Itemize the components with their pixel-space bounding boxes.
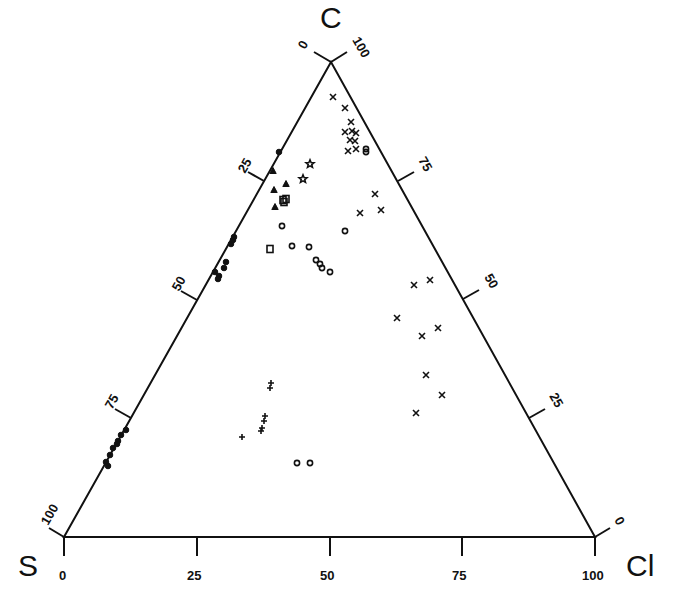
left-label-25: 25 (235, 155, 255, 175)
left-tick-75 (115, 409, 131, 418)
data-point-x (423, 372, 429, 378)
right-label-50: 50 (481, 271, 501, 291)
bottom-label-0: 0 (59, 568, 66, 583)
data-point-triangle (283, 181, 289, 187)
right-label-75: 75 (415, 154, 435, 174)
left-label-100: 100 (38, 501, 62, 527)
right-tick-50 (463, 290, 479, 299)
data-point-x (413, 410, 419, 416)
ternary-diagram: C S Cl 0 25 50 75 100 100 75 50 25 0 0 2… (0, 0, 679, 591)
data-point-plus (258, 428, 264, 434)
data-point-x (353, 146, 359, 152)
data-point-plus (262, 413, 268, 419)
data-point-star (299, 175, 307, 183)
data-point-x (342, 105, 348, 111)
data-point-triangle (272, 204, 278, 210)
ternary-triangle (64, 62, 595, 537)
data-point-x (330, 94, 336, 100)
right-label-0: 0 (611, 514, 628, 528)
data-point-dot (107, 452, 113, 458)
left-tick-50 (181, 291, 197, 300)
data-markers (103, 94, 445, 469)
bottom-label-100: 100 (582, 568, 604, 583)
data-point-plus (259, 425, 265, 431)
data-point-dot (118, 432, 124, 438)
right-label-25: 25 (546, 390, 566, 410)
data-point-circle (319, 265, 324, 270)
data-point-dot (105, 463, 111, 469)
data-point-circle (327, 269, 332, 274)
data-point-circle (342, 228, 347, 233)
left-tick-25 (248, 172, 264, 181)
data-point-x (419, 333, 425, 339)
data-point-dot (231, 234, 237, 240)
data-point-x (357, 210, 363, 216)
series-open-circles (279, 146, 368, 465)
data-point-triangle (271, 187, 277, 193)
data-point-x (348, 119, 354, 125)
data-point-plus (239, 434, 245, 440)
series-stars (299, 160, 314, 183)
right-tick-75 (398, 172, 414, 181)
data-point-x (439, 392, 445, 398)
vertex-label-cl: Cl (626, 549, 654, 582)
data-point-x (372, 191, 378, 197)
left-label-0: 0 (295, 38, 312, 52)
data-point-circle (307, 460, 312, 465)
series-plus (239, 380, 274, 440)
data-point-x (394, 315, 400, 321)
apex-tick-left (314, 52, 331, 62)
right-label-100: 100 (349, 34, 373, 60)
data-point-x (345, 148, 351, 154)
data-point-star (306, 160, 314, 168)
corner-tick-cl-right (595, 528, 610, 537)
left-label-75: 75 (102, 391, 122, 411)
data-point-circle (279, 223, 284, 228)
data-point-circle (306, 244, 311, 249)
data-point-x (427, 277, 433, 283)
data-point-plus (267, 385, 273, 391)
data-point-x (352, 138, 358, 144)
data-point-dot (228, 241, 234, 247)
apex-tick-right (331, 52, 347, 62)
data-point-circle (294, 460, 299, 465)
data-point-x (411, 282, 417, 288)
data-point-dot (276, 149, 282, 155)
bottom-label-25: 25 (187, 568, 201, 583)
data-point-x (435, 325, 441, 331)
bottom-label-50: 50 (320, 568, 334, 583)
series-squares (267, 196, 289, 253)
corner-tick-s-left (49, 528, 64, 537)
data-point-dot (221, 265, 227, 271)
data-point-dot (114, 441, 120, 447)
bottom-label-75: 75 (452, 568, 466, 583)
data-point-dot (123, 427, 129, 433)
right-tick-25 (529, 409, 545, 418)
data-point-circle (289, 243, 294, 248)
data-point-dot (223, 259, 229, 265)
vertex-label-c: C (320, 1, 342, 34)
data-point-dot (215, 276, 221, 282)
data-point-plus (261, 418, 267, 424)
data-point-x (342, 129, 348, 135)
vertex-label-s: S (18, 549, 38, 582)
data-point-plus (268, 380, 274, 386)
series-cross-x (330, 94, 445, 416)
left-label-50: 50 (169, 273, 189, 293)
data-point-x (378, 207, 384, 213)
data-point-square (267, 246, 273, 253)
